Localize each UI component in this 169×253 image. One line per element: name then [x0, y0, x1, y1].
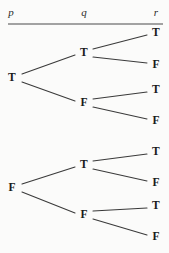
tree-node-p-T.q-F.r-F: F [152, 115, 159, 127]
tree-node-p-T.q-F.r-T: T [152, 84, 160, 96]
column-label-r: r [154, 7, 158, 18]
truth-tree-figure: pqr TFTFTFTFTFTFTF [0, 0, 169, 253]
edge-group [22, 35, 147, 235]
tree-node-p-F.q-T.r-T: T [152, 146, 160, 158]
tree-node-p-T.q-F: F [80, 97, 87, 109]
tree-node-p-T.q-T.r-T: T [152, 27, 160, 39]
tree-edge [93, 169, 147, 181]
tree-node-p-F: F [8, 182, 15, 194]
tree-edge [93, 57, 147, 63]
tree-node-p-T.q-T: T [80, 47, 88, 59]
column-label-q: q [81, 7, 87, 18]
tree-edge [93, 35, 147, 49]
column-label-p: p [8, 7, 14, 18]
tree-edge [93, 208, 147, 211]
tree-edge [22, 55, 75, 74]
tree-edge [22, 167, 75, 184]
tree-node-p-T: T [8, 72, 16, 84]
tree-node-p-T.q-T.r-F: F [152, 59, 159, 71]
tree-edge [93, 107, 147, 119]
tree-node-p-F.q-T.r-F: F [152, 177, 159, 189]
tree-edge [22, 82, 75, 101]
tree-node-p-F.q-T: T [80, 159, 88, 171]
tree-node-p-F.q-F.r-F: F [152, 231, 159, 243]
tree-node-p-F.q-F: F [80, 209, 87, 221]
tree-edge [22, 192, 75, 213]
tree-node-p-F.q-F.r-T: T [152, 200, 160, 212]
tree-edge [93, 154, 147, 161]
tree-edge [93, 92, 147, 99]
tree-edge [93, 219, 147, 235]
